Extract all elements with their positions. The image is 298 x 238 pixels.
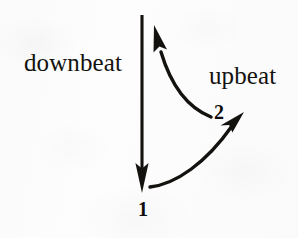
downbeat-label: downbeat [24, 50, 122, 75]
rebound-arrowhead-icon [154, 25, 168, 53]
conducting-pattern-drawing [0, 0, 298, 238]
conducting-pattern-figure: downbeat upbeat 1 2 [0, 0, 298, 238]
rebound-arrow [154, 25, 212, 117]
upbeat-arrow [150, 112, 244, 187]
upbeat-curve-stroke [150, 126, 232, 187]
upbeat-arrowhead-icon [221, 112, 245, 133]
upbeat-label: upbeat [209, 63, 276, 88]
downbeat-arrow [135, 15, 148, 193]
beat-number-2: 2 [214, 102, 224, 122]
beat-number-1: 1 [138, 199, 148, 219]
rebound-curve-stroke [161, 52, 211, 117]
